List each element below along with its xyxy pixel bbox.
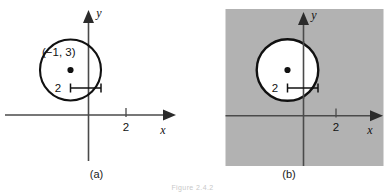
panel-b: 2 2 x y (b) <box>193 0 385 193</box>
panel-b-plot: 2 2 x y <box>193 0 385 193</box>
center-coordinate-label-a: (−1, 3) <box>42 46 76 58</box>
figure-caption-partial: Figure 2.4.2 <box>0 184 385 193</box>
figure-root: (−1, 3) 2 2 x y (a) <box>0 0 385 193</box>
x-axis-arrow-a <box>163 110 176 121</box>
center-dot-b <box>284 67 290 73</box>
y-axis-label-b: y <box>310 8 317 22</box>
x-axis-label-a: x <box>159 123 166 137</box>
x-tick-label-2-b: 2 <box>333 121 339 133</box>
panel-a-plot: (−1, 3) 2 2 x y <box>0 0 193 193</box>
panel-caption-b: (b) <box>193 168 385 180</box>
x-tick-label-2-a: 2 <box>123 121 129 133</box>
panel-a: (−1, 3) 2 2 x y (a) <box>0 0 193 193</box>
radius-label-a: 2 <box>55 82 61 94</box>
x-axis-label-b: x <box>366 123 373 137</box>
panel-caption-a: (a) <box>0 168 193 180</box>
y-axis-arrow-a <box>83 10 94 23</box>
center-dot-a <box>67 67 73 73</box>
radius-label-b: 2 <box>272 82 278 94</box>
y-axis-label-a: y <box>95 6 102 20</box>
